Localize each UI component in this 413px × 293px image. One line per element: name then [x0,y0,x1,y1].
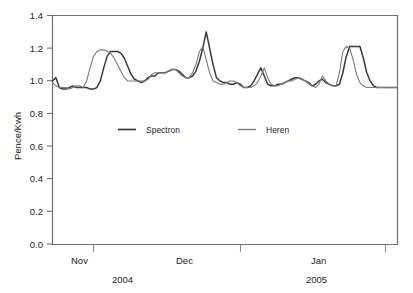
legend-label-spectron: Spectron [146,125,180,135]
y-tick-label: 0.6 [30,141,43,152]
y-axis-ticks [47,16,52,245]
series-line-spectron [53,32,398,89]
y-axis-title: Pence/Kwh [12,112,23,160]
chart-container: Spectron Heren Pence/Kwh 1.4 1.2 1.0 0.8… [0,0,413,293]
x-year-label-2005: 2005 [306,274,327,285]
y-tick-labels: 1.4 1.2 1.0 0.8 0.6 0.4 0.2 0.0 [30,10,43,250]
data-series-layer [53,32,398,89]
y-tick-label: 0.2 [30,206,43,217]
x-year-label-2004: 2004 [112,274,133,285]
y-tick-label: 0.0 [30,239,43,250]
y-tick-label: 0.8 [30,108,43,119]
x-year-labels: 2004 2005 [112,274,327,285]
chart-legend: Spectron Heren [118,125,289,135]
x-tick-label-nov: Nov [71,255,88,266]
x-tick-label-jan: Jan [311,255,326,266]
x-tick-label-dec: Dec [176,255,193,266]
y-tick-label: 1.2 [30,43,43,54]
y-tick-label: 1.0 [30,75,43,86]
y-tick-label: 1.4 [30,10,43,21]
x-tick-labels: Nov Dec Jan [71,255,326,266]
legend-label-heren: Heren [266,125,289,135]
y-tick-label: 0.4 [30,173,43,184]
x-axis-ticks [94,245,386,252]
line-chart-plot: Spectron Heren Pence/Kwh 1.4 1.2 1.0 0.8… [0,0,413,293]
